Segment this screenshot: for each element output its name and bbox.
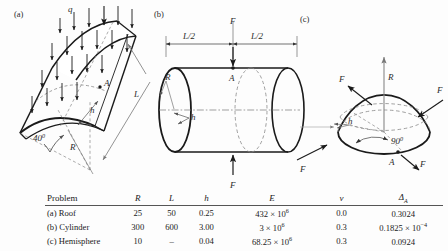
cell-R: 10 xyxy=(121,234,155,248)
hemisphere-force-right-label: F xyxy=(436,85,443,95)
panel-c-hemisphere: (c) R 900 h F F F xyxy=(297,14,443,174)
cell-L: – xyxy=(155,234,189,248)
cell-R: 300 xyxy=(121,220,155,234)
cylinder-force-bottom-label: F xyxy=(229,180,236,190)
hemisphere-angle-arc xyxy=(356,137,388,143)
hemisphere-thickness-label: h xyxy=(348,116,353,126)
panel-a-tag: (a) xyxy=(14,9,24,19)
cell-v: 0.3 xyxy=(320,220,364,234)
cell-problem: (a) Roof xyxy=(45,205,121,220)
cylinder-half-length-left-label: L/2 xyxy=(182,31,196,41)
cell-delta-A: 0.1825 × 10−4 xyxy=(363,220,443,234)
cylinder-radius-label: R xyxy=(164,72,171,82)
cell-R: 25 xyxy=(121,205,155,220)
panel-c-tag: (c) xyxy=(300,14,310,24)
header-E: E xyxy=(224,192,319,205)
hemisphere-force-lower-left-arrow xyxy=(297,145,327,160)
hemisphere-angle-label: 900 xyxy=(391,135,404,146)
cylinder-point-A-marker xyxy=(231,66,235,70)
hemisphere-force-at-A-arrow xyxy=(401,155,419,170)
roof-angle-label: 400 xyxy=(33,132,46,143)
hemisphere-force-at-A-label: F xyxy=(419,159,426,169)
roof-load-label: q xyxy=(68,4,73,14)
cell-problem: (b) Cylinder xyxy=(45,220,121,234)
roof-point-A-marker xyxy=(98,85,101,88)
panel-b-tag: (b) xyxy=(154,9,164,19)
header-h: h xyxy=(188,192,224,205)
panel-a-roof: (a) xyxy=(14,4,150,174)
cell-E: 68.25 × 106 xyxy=(224,234,319,248)
cell-L: 50 xyxy=(155,205,189,220)
cell-delta-A: 0.0924 xyxy=(363,234,443,248)
header-L: L xyxy=(155,192,189,205)
table-header-row: Problem R L h E ν ΔA xyxy=(45,192,443,205)
roof-radius-label: R xyxy=(69,142,76,152)
cell-h: 3.00 xyxy=(188,220,224,234)
cell-E: 3 × 106 xyxy=(224,220,319,234)
roof-length-label: L xyxy=(133,89,139,99)
figure-svg: (a) xyxy=(0,0,448,196)
figure-area: (a) xyxy=(0,0,448,196)
cylinder-thickness-label: h xyxy=(191,112,196,122)
table-row: (c) Hemisphere 10 – 0.04 68.25 × 106 0.3… xyxy=(45,234,443,248)
hemisphere-point-A-label: A xyxy=(388,157,395,167)
hemisphere-force-right-arrow xyxy=(418,100,443,117)
roof-near-edge xyxy=(20,118,95,133)
cell-delta-A: 0.3024 xyxy=(363,205,443,220)
cell-E: 432 × 106 xyxy=(224,205,319,220)
hemisphere-point-A-marker xyxy=(396,150,400,154)
cylinder-half-length-right-label: L/2 xyxy=(250,31,264,41)
table-row: (b) Cylinder 300 600 3.00 3 × 106 0.3 0.… xyxy=(45,220,443,234)
hemisphere-rim-front xyxy=(338,132,430,154)
header-delta-A: ΔA xyxy=(363,192,443,205)
cell-problem: (c) Hemisphere xyxy=(45,234,121,248)
hemisphere-force-upper-left-label: F xyxy=(338,74,345,84)
roof-point-A-label: A xyxy=(103,78,110,88)
cell-L: 600 xyxy=(155,220,189,234)
parameters-table: Problem R L h E ν ΔA (a) Roof 25 50 0.25… xyxy=(45,192,443,249)
roof-radius-left-dashed xyxy=(20,133,90,170)
cell-h: 0.04 xyxy=(188,234,224,248)
panel-b-cylinder: (b) L/2 L/2 F R h A xyxy=(154,9,304,190)
table-body: (a) Roof 25 50 0.25 432 × 106 0.0 0.3024… xyxy=(45,205,443,248)
parameters-table-container: Problem R L h E ν ΔA (a) Roof 25 50 0.25… xyxy=(0,192,448,251)
cylinder-force-top-label: F xyxy=(229,16,236,26)
hemisphere-force-lower-left-label: F xyxy=(299,164,306,174)
header-R: R xyxy=(121,192,155,205)
cell-v: 0.0 xyxy=(320,205,364,220)
table-row: (a) Roof 25 50 0.25 432 × 106 0.0 0.3024 xyxy=(45,205,443,220)
header-v: ν xyxy=(320,192,364,205)
header-problem: Problem xyxy=(45,192,121,205)
hemisphere-radius-label: R xyxy=(387,72,394,82)
cell-v: 0.3 xyxy=(320,234,364,248)
cell-h: 0.25 xyxy=(188,205,224,220)
cylinder-point-A-label: A xyxy=(228,73,235,83)
roof-thickness-label: h xyxy=(90,105,95,115)
